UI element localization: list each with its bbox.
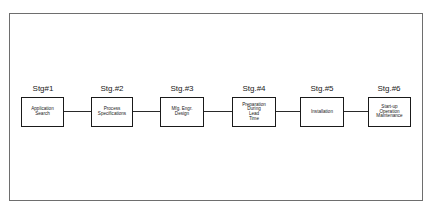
connector-2-3 (133, 111, 160, 112)
stage-1-box: Application Search (21, 97, 64, 127)
stage-3-box: Mfg. Engr. Design (160, 97, 204, 127)
stage-5-box: Installation (300, 97, 344, 127)
stage-2-label: Stg.#2 (82, 84, 142, 94)
connector-5-6 (344, 111, 368, 112)
stage-6-label: Stg.#6 (359, 84, 419, 94)
stage-3-label: Stg.#3 (152, 84, 212, 94)
connector-3-4 (204, 111, 232, 112)
stage-1-label: Stg#1 (13, 84, 73, 94)
stage-5-label: Stg.#5 (292, 84, 352, 94)
stage-4-label: Stg.#4 (224, 84, 284, 94)
connector-1-2 (64, 111, 91, 112)
stage-6-box: Start-up Operation Maintenance (368, 97, 411, 127)
connector-4-5 (276, 111, 300, 112)
diagram-frame (9, 13, 423, 201)
stage-2-box: Process Specifications (91, 97, 133, 127)
stage-4-box: Preparation During Lead Time (232, 97, 276, 127)
